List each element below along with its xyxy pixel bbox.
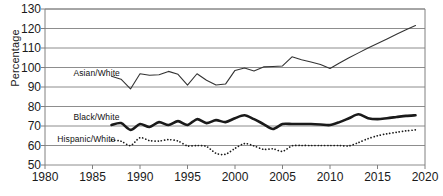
series-label-asian-white: Asian/White	[74, 68, 120, 78]
series-lines	[112, 26, 416, 155]
series-label-black-white: Black/White	[74, 112, 120, 122]
series-label-hispanic-white: Hispanic/White	[57, 134, 115, 144]
x-tick-marks	[45, 165, 425, 169]
y-tick-marks	[41, 9, 45, 165]
chart-container: Percentage 1301201101009080706050 198019…	[0, 0, 443, 196]
series-line-asian-white	[112, 26, 416, 89]
series-line-hispanic-white	[112, 130, 416, 155]
series-line-black-white	[112, 114, 416, 130]
plot-area	[0, 0, 443, 196]
